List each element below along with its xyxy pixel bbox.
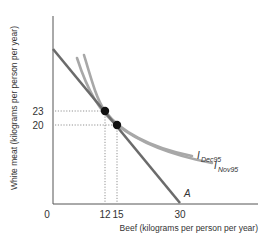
x-tick-12: 12: [99, 209, 111, 220]
y-tick-20: 20: [32, 120, 44, 131]
x-tick-30: 30: [174, 209, 186, 220]
dec95-label-main: I: [197, 150, 200, 161]
indifference-chart: 23 20 0 12 15 30 A I Dec95 I Nov95 Beef …: [0, 0, 259, 238]
origin-label: 0: [44, 209, 50, 220]
indifference-curve-nov95: [77, 58, 212, 163]
x-tick-15: 15: [112, 209, 124, 220]
x-axis-title: Beef (kilograms per person per year): [120, 223, 259, 233]
line-a-label: A: [183, 188, 191, 199]
y-tick-23: 23: [32, 106, 44, 117]
nov95-label-sub: Nov95: [218, 166, 238, 173]
point-nov95: [113, 121, 121, 129]
dec95-label-sub: Dec95: [201, 156, 221, 163]
point-dec95: [101, 107, 109, 115]
nov95-label-main: I: [214, 160, 217, 171]
y-axis-title: White meat (kilograms per person per yea…: [9, 26, 19, 190]
